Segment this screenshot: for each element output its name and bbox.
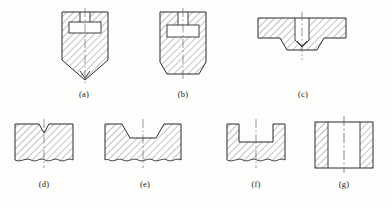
figure-b-body [154,8,216,82]
figure-g-left-wall [315,122,328,168]
figure-b [154,8,216,82]
figure-g-caption: (g) [339,179,350,189]
figure-g [310,116,378,174]
figure-e [100,118,186,170]
figure-a-body [56,8,118,86]
figure-e-caption: (e) [140,179,150,189]
figure-b-caption: (b) [178,89,189,99]
figure-d [10,118,82,170]
figure-c-body [254,10,354,62]
figure-f-caption: (f) [251,179,260,189]
drawing-sheet: (a) [0,0,392,208]
figure-c [254,10,354,62]
figure-c-caption: (c) [298,89,308,99]
figure-a-caption: (a) [79,89,89,99]
figure-f [222,118,290,170]
figure-d-body [10,118,82,170]
figure-d-caption: (d) [39,179,50,189]
figure-a [56,8,118,86]
figure-g-right-wall [360,122,373,168]
